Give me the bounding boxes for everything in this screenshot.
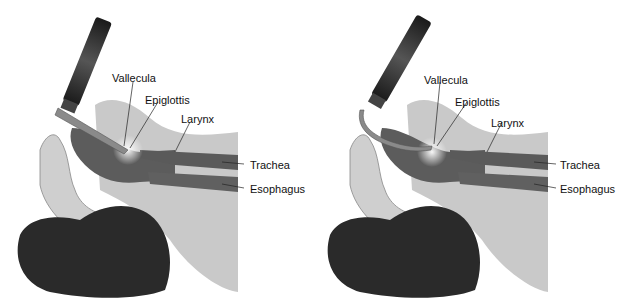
airway-illustration (0, 0, 312, 308)
airway-illustration (312, 0, 624, 308)
laryngoscope-handle (367, 14, 432, 109)
label-epiglottis: Epiglottis (455, 96, 500, 108)
label-larynx: Larynx (181, 113, 214, 125)
laryngoscope-handle (60, 17, 112, 114)
hair (18, 206, 170, 298)
diagram-curved-blade: Vallecula Epiglottis Larynx Trachea Esop… (312, 0, 624, 308)
label-epiglottis: Epiglottis (145, 94, 190, 106)
hair (328, 206, 480, 298)
label-trachea: Trachea (560, 159, 600, 171)
light-glow (417, 137, 447, 167)
label-esophagus: Esophagus (250, 183, 305, 195)
label-esophagus: Esophagus (560, 183, 615, 195)
label-trachea: Trachea (250, 159, 290, 171)
diagram-straight-blade: Vallecula Epiglottis Larynx Trachea Esop… (0, 0, 312, 308)
label-vallecula: Vallecula (112, 72, 156, 84)
label-vallecula: Vallecula (424, 74, 468, 86)
label-larynx: Larynx (491, 117, 524, 129)
